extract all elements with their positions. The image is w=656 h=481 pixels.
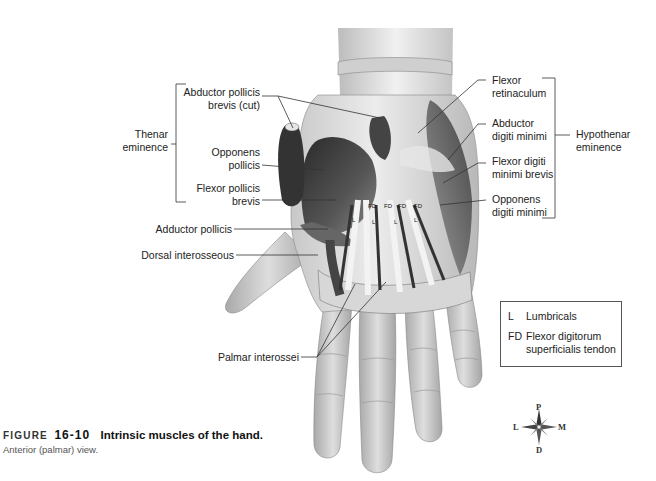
figure-title: Intrinsic muscles of the hand. — [101, 429, 263, 441]
label-line: Hypothenar — [576, 128, 630, 141]
compass-lateral: L — [513, 422, 519, 432]
figure-caption: FIGURE 16-10 Intrinsic muscles of the ha… — [3, 425, 263, 455]
label-flexor-retinaculum: Flexor retinaculum — [492, 74, 546, 99]
label-line: Abductor pollicis — [172, 86, 260, 99]
figure-label: FIGURE — [3, 430, 48, 441]
svg-text:FD: FD — [414, 203, 423, 209]
label-flexor-digiti-minimi-brevis: Flexor digiti minimi brevis — [492, 155, 553, 180]
label-line: digiti minimi — [492, 130, 547, 143]
compass-medial: M — [558, 422, 566, 432]
label-dorsal-interosseous: Dorsal interosseous — [130, 249, 234, 262]
label-flexor-pollicis-brevis: Flexor pollicis brevis — [180, 182, 260, 207]
svg-text:FD: FD — [384, 203, 393, 209]
label-line: retinaculum — [492, 87, 546, 100]
compass-distal: D — [536, 445, 542, 455]
label-line: Flexor digiti — [492, 155, 553, 168]
label-line: eminence — [576, 141, 630, 154]
legend-value-line: Flexor digitorum — [526, 330, 601, 342]
label-line: Flexor — [492, 74, 546, 87]
label-line: Thenar — [110, 128, 168, 141]
label-adductor-pollicis: Adductor pollicis — [140, 223, 232, 236]
figure-subtitle: Anterior (palmar) view. — [3, 444, 263, 455]
legend-key: L — [508, 310, 526, 323]
label-palmar-interossei: Palmar interossei — [198, 351, 299, 364]
label-thenar-eminence: Thenar eminence — [110, 128, 168, 153]
legend-item-fd: FDFlexor digitorumsuperficialis tendon — [508, 330, 616, 355]
legend-item-lumbricals: LLumbricals — [508, 310, 577, 323]
legend-value: Flexor digitorumsuperficialis tendon — [526, 330, 616, 355]
svg-text:FD: FD — [398, 203, 407, 209]
label-opponens-pollicis: Opponens pollicis — [190, 146, 260, 171]
label-line: minimi brevis — [492, 168, 553, 181]
legend-box: LLumbricals FDFlexor digitorumsuperficia… — [500, 301, 622, 367]
label-line: brevis — [180, 195, 260, 208]
label-line: brevis (cut) — [172, 99, 260, 112]
label-opponens-digiti-minimi: Opponens digiti minimi — [492, 193, 547, 218]
svg-text:FD: FD — [368, 203, 377, 209]
legend-value: Lumbricals — [526, 310, 577, 323]
label-line: digiti minimi — [492, 206, 547, 219]
label-line: Flexor pollicis — [180, 182, 260, 195]
label-abductor-digiti-minimi: Abductor digiti minimi — [492, 117, 547, 142]
compass-rose-icon — [521, 409, 557, 445]
label-line: Opponens — [190, 146, 260, 159]
label-line: Abductor — [492, 117, 547, 130]
hand-illustration: FDFD FDFD LL LL — [0, 0, 656, 481]
label-line: eminence — [110, 141, 168, 154]
label-line: pollicis — [190, 159, 260, 172]
figure-stage: FDFD FDFD LL LL — [0, 0, 656, 481]
compass-proximal: P — [536, 402, 541, 412]
figure-number: 16-10 — [54, 428, 90, 442]
label-abductor-pollicis-brevis-cut: Abductor pollicis brevis (cut) — [172, 86, 260, 111]
label-line: Opponens — [492, 193, 547, 206]
label-hypothenar-eminence: Hypothenar eminence — [576, 128, 630, 153]
legend-value-line: superficialis tendon — [526, 343, 616, 355]
legend-key: FD — [508, 330, 526, 343]
